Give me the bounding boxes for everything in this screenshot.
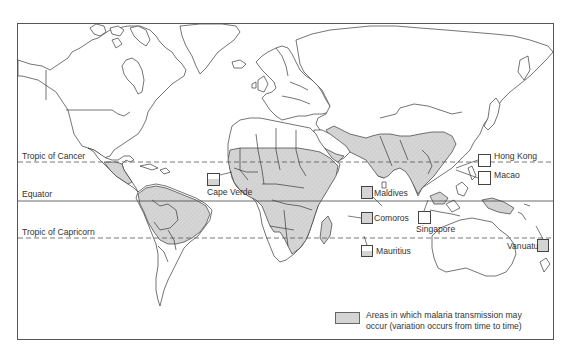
asia-malaria: [326, 126, 456, 194]
mauritius-label: Mauritius: [376, 247, 411, 256]
maldives-label: Maldives: [374, 189, 408, 198]
madagascar: [320, 216, 332, 244]
cape-verde-label: Cape Verde: [207, 188, 252, 197]
legend-line-1: Areas in which malaria transmission may: [366, 310, 556, 321]
new-guinea: [482, 198, 514, 214]
greenland: [180, 24, 240, 74]
comoros-box: [361, 212, 373, 224]
legend-line-2: occur (variation occurs from time to tim…: [366, 321, 556, 332]
hong-kong-box: [478, 154, 491, 167]
equator-label: Equator: [22, 190, 52, 199]
macao-box: [478, 171, 491, 185]
singapore-box: [418, 211, 431, 224]
mauritius-box: [361, 245, 373, 257]
comoros-label: Comoros: [374, 214, 409, 223]
tropic-of-capricorn-label: Tropic of Capricorn: [22, 228, 95, 237]
vanuatu-box: [537, 239, 549, 252]
north-america: [18, 26, 186, 158]
vanuatu-label: Vanuatu: [507, 242, 538, 251]
singapore-label: Singapore: [416, 225, 455, 234]
south-america-malaria: [138, 186, 210, 244]
cape-verde-box: [207, 173, 220, 186]
legend-swatch: [335, 312, 360, 324]
macao-label: Macao: [494, 171, 520, 180]
legend-text: Areas in which malaria transmission may …: [366, 310, 556, 332]
hong-kong-label: Hong Kong: [494, 152, 537, 161]
tropic-of-cancer-label: Tropic of Cancer: [22, 152, 85, 161]
maldives-box: [361, 186, 373, 199]
